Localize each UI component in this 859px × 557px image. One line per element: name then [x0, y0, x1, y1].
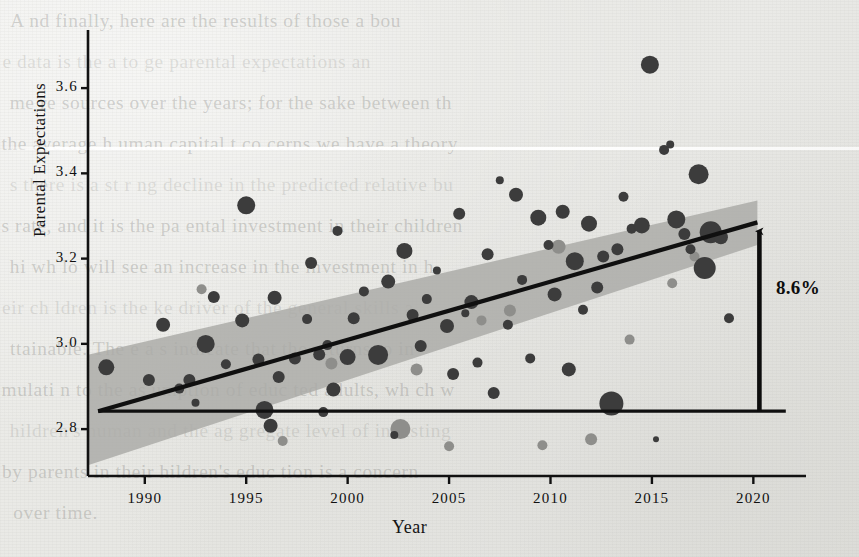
scatter-point	[724, 313, 734, 323]
scatter-point	[237, 196, 255, 214]
scatter-point	[415, 340, 427, 352]
scatter-point	[305, 257, 317, 269]
scatter-point	[278, 436, 288, 446]
scatter-point	[509, 188, 523, 202]
scatter-point	[694, 257, 716, 279]
x-tick-label: 1990	[110, 490, 180, 507]
scatter-point	[268, 291, 282, 305]
scatter-point	[444, 441, 454, 451]
scatter-point	[591, 282, 603, 294]
scatter-point	[390, 431, 398, 439]
scatter-point	[537, 440, 547, 450]
scatter-point	[678, 228, 690, 240]
scatter-point	[477, 315, 487, 325]
scatter-point	[597, 251, 609, 263]
scatter-point	[333, 226, 343, 236]
scatter-point	[641, 56, 659, 74]
scatter-point	[667, 278, 677, 288]
scatter-point	[422, 294, 432, 304]
scatter-point	[517, 275, 527, 285]
scatter-point	[325, 358, 337, 370]
x-axis-title: Year	[392, 517, 427, 538]
scatter-point	[503, 320, 513, 330]
scatter-point	[473, 358, 483, 368]
scatter-point	[461, 309, 469, 317]
scatter-point	[562, 362, 576, 376]
scatter-point	[440, 319, 454, 333]
scatter-point	[634, 217, 650, 233]
scatter-point	[552, 240, 566, 254]
x-tick-label: 1995	[211, 490, 281, 507]
scatter-point	[525, 353, 535, 363]
x-tick-label: 2020	[718, 490, 788, 507]
scatter-point	[381, 275, 395, 289]
scatter-point	[411, 363, 423, 375]
scatter-point	[326, 383, 340, 397]
scatter-point	[368, 345, 388, 365]
scatter-point	[340, 349, 356, 365]
scatter-point	[666, 140, 674, 148]
y-axis-title: Parental Expectations	[30, 60, 50, 260]
scatter-point	[143, 374, 155, 386]
scatter-point	[686, 244, 696, 254]
scatter-chart: 2.83.03.23.43.6 199019952000200520102015…	[0, 0, 859, 557]
scatter-point	[235, 313, 249, 327]
scatter-point	[208, 291, 220, 303]
scatter-point	[556, 205, 570, 219]
scatter-point	[566, 252, 584, 270]
scatter-point	[488, 387, 500, 399]
scatter-point	[98, 359, 114, 375]
scatter-point	[611, 243, 623, 255]
scatter-point	[197, 284, 207, 294]
scatter-point	[585, 433, 597, 445]
scatter-point	[581, 216, 597, 232]
plot-canvas	[0, 0, 859, 557]
scatter-point	[453, 208, 465, 220]
y-tick-label: 2.8	[34, 419, 78, 436]
scatter-point	[619, 192, 629, 202]
trend-line	[98, 222, 757, 411]
scatter-point	[197, 335, 215, 353]
y-tick-label: 3.0	[34, 334, 78, 351]
scatter-point	[667, 210, 685, 228]
confidence-band	[88, 201, 757, 466]
scatter-point	[482, 248, 494, 260]
scatter-point	[221, 359, 231, 369]
scatter-point	[273, 371, 285, 383]
x-tick-label: 2005	[414, 490, 484, 507]
effect-size-annotation-label: 8.6%	[776, 277, 820, 299]
scatter-point	[264, 419, 278, 433]
scatter-point	[359, 286, 369, 296]
scatter-point	[447, 368, 459, 380]
scatter-point	[625, 335, 635, 345]
scatter-point	[548, 287, 562, 301]
scatter-point	[302, 314, 312, 324]
scatter-point	[504, 305, 516, 317]
scatter-point	[578, 305, 588, 315]
scatter-point	[156, 318, 170, 332]
scatter-point	[653, 436, 659, 442]
scatter-point	[496, 176, 504, 184]
scatter-point	[192, 399, 200, 407]
scatter-point	[348, 312, 360, 324]
scatter-point	[530, 210, 546, 226]
scatter-point	[433, 267, 441, 275]
scatter-point	[689, 164, 709, 184]
x-tick-label: 2010	[515, 490, 585, 507]
x-tick-label: 2000	[313, 490, 383, 507]
x-tick-label: 2015	[617, 490, 687, 507]
scatter-point	[544, 240, 554, 250]
scatter-point	[396, 243, 412, 259]
